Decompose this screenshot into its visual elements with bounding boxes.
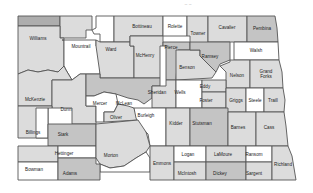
county-walsh[interactable] [234,42,279,60]
county-pembina[interactable] [247,16,278,42]
county-burke[interactable] [60,16,92,38]
county-cass[interactable] [256,112,288,146]
county-stark[interactable] [48,124,96,146]
county-ward[interactable] [96,40,134,78]
county-barnes[interactable] [228,112,256,146]
county-stutsman[interactable] [190,108,228,146]
header-mark: ~ ~ [184,1,191,7]
county-lamoure[interactable] [206,146,246,162]
county-wells[interactable] [176,80,202,108]
county-logan[interactable] [174,146,206,162]
county-traill[interactable] [264,88,285,112]
county-mchenry[interactable] [130,36,163,78]
county-dickey[interactable] [206,162,246,180]
county-grand-forks[interactable] [250,60,283,88]
county-emmons[interactable] [150,146,174,180]
county-cavalier[interactable] [208,16,247,42]
county-adams[interactable] [58,158,100,180]
county-layer [18,16,296,180]
county-slope[interactable] [18,146,58,162]
county-hettinger[interactable] [58,146,96,158]
county-golden-valley[interactable] [36,108,48,138]
county-kidder[interactable] [166,108,190,146]
county-bowman[interactable] [18,162,58,180]
county-divide[interactable] [18,16,60,26]
county-richland[interactable] [272,146,296,180]
county-steele[interactable] [246,88,264,112]
county-williams[interactable] [18,26,64,74]
county-rolette[interactable] [163,16,187,36]
county-sargent[interactable] [246,162,272,180]
county-eddy[interactable] [202,80,226,92]
county-ransom[interactable] [246,146,272,162]
county-mcintosh[interactable] [174,162,206,180]
north-dakota-county-map: ~ ~ BottineauRoletteTownerCavalierPembin… [0,0,313,193]
county-griggs[interactable] [226,88,246,112]
county-foster[interactable] [202,92,226,108]
county-renville[interactable] [92,16,114,42]
